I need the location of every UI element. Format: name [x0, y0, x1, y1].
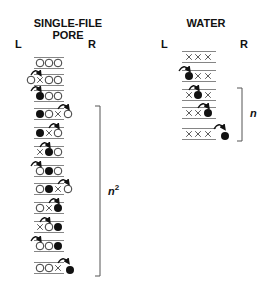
tracer-molecule-icon	[36, 110, 44, 118]
vacancy-icon	[205, 131, 211, 137]
water-row	[179, 67, 216, 82]
tracer-molecule-icon	[45, 148, 53, 156]
water-molecule-icon	[45, 264, 53, 272]
water-molecule-icon	[54, 92, 62, 100]
vacancy-icon	[37, 77, 43, 83]
tracer-molecule-icon	[185, 72, 193, 80]
single-file-row	[34, 218, 64, 233]
vacancy-icon	[205, 73, 211, 79]
water-molecule-icon	[54, 59, 62, 67]
water-row	[182, 104, 216, 119]
single-file-row	[34, 58, 64, 69]
vacancy-icon	[195, 131, 201, 137]
water-molecule-icon	[45, 92, 53, 100]
water-molecule-icon	[36, 264, 44, 272]
water-row	[182, 52, 216, 63]
water-molecule-icon	[36, 242, 44, 250]
tracer-molecule-icon	[66, 266, 74, 274]
single-file-row	[31, 237, 64, 252]
single-file-row	[34, 143, 64, 158]
tracer-molecule-icon	[194, 91, 202, 99]
water-molecule-icon	[36, 167, 44, 175]
vacancy-icon	[205, 54, 211, 60]
water-bracket	[237, 88, 242, 141]
single-file-row	[34, 199, 64, 214]
water-row	[182, 125, 229, 140]
water-rows	[179, 52, 229, 141]
single-file-row	[31, 87, 64, 102]
water-molecule-icon	[36, 59, 44, 67]
tracer-molecule-icon	[54, 204, 62, 212]
single-file-row	[34, 105, 72, 120]
water-molecule-icon	[54, 129, 62, 137]
tracer-molecule-icon	[54, 223, 62, 231]
tracer-molecule-icon	[45, 167, 53, 175]
water-molecule-icon	[36, 185, 44, 193]
vacancy-icon	[55, 265, 61, 271]
single-file-row	[34, 180, 72, 195]
water-molecule-icon	[45, 110, 53, 118]
single-file-row	[34, 124, 64, 139]
water-molecule-icon	[45, 76, 53, 84]
water-molecule-icon	[54, 76, 62, 84]
pore-diagram	[0, 0, 267, 285]
water-molecule-icon	[64, 185, 72, 193]
tracer-molecule-icon	[45, 185, 53, 193]
water-molecule-icon	[45, 59, 53, 67]
single-file-row	[31, 162, 64, 177]
vacancy-icon	[205, 92, 211, 98]
vacancy-icon	[55, 186, 61, 192]
vacancy-icon	[186, 110, 192, 116]
water-molecule-icon	[54, 167, 62, 175]
vacancy-icon	[186, 92, 192, 98]
vacancy-icon	[195, 73, 201, 79]
tracer-molecule-icon	[36, 129, 44, 137]
vacancy-icon	[195, 54, 201, 60]
vacancy-icon	[37, 149, 43, 155]
vacancy-icon	[37, 224, 43, 230]
single-file-bracket	[95, 106, 100, 276]
tracer-molecule-icon	[54, 242, 62, 250]
vacancy-icon	[46, 130, 52, 136]
water-row	[182, 86, 216, 101]
water-molecule-icon	[64, 110, 72, 118]
tracer-molecule-icon	[36, 92, 44, 100]
water-molecule-icon	[36, 204, 44, 212]
tracer-molecule-icon	[221, 132, 229, 140]
water-molecule-icon	[54, 148, 62, 156]
tracer-molecule-icon	[204, 109, 212, 117]
vacancy-icon	[186, 131, 192, 137]
single-file-row	[34, 259, 74, 274]
single-file-row	[27, 71, 64, 86]
vacancy-icon	[46, 205, 52, 211]
single-file-rows	[27, 58, 74, 275]
water-molecule-icon	[27, 76, 35, 84]
vacancy-icon	[55, 111, 61, 117]
water-molecule-icon	[45, 223, 53, 231]
vacancy-icon	[186, 54, 192, 60]
water-molecule-icon	[45, 242, 53, 250]
vacancy-icon	[195, 110, 201, 116]
